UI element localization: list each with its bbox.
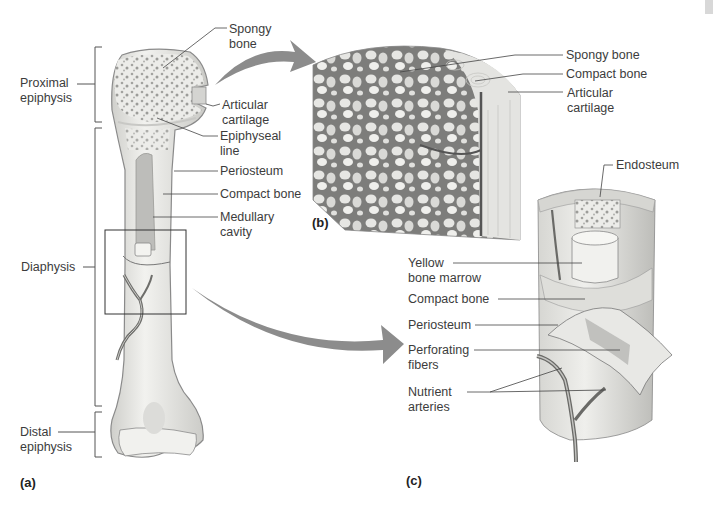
panel-label-c: (c) — [406, 473, 422, 488]
diaphysis-bracket — [83, 128, 102, 406]
label-a-articular-cartilage: Articular cartilage — [222, 98, 269, 128]
label-c-yellow-bone-marrow: Yellow bone marrow — [408, 256, 481, 286]
label-a-compact-bone: Compact bone — [220, 187, 301, 202]
scrollbar-thumb[interactable] — [705, 0, 713, 14]
panel-label-a: (a) — [20, 475, 36, 490]
label-b-spongy-bone: Spongy bone — [566, 48, 640, 63]
label-b-articular-cartilage: Articular cartilage — [567, 86, 614, 116]
label-c-perforating-fibers: Perforating fibers — [408, 343, 469, 373]
label-diaphysis: Diaphysis — [21, 260, 75, 275]
panel-label-b: (b) — [312, 215, 329, 230]
label-a-medullary-cavity: Medullary cavity — [220, 210, 274, 240]
label-b-compact-bone: Compact bone — [566, 67, 647, 82]
label-proximal-epiphysis: Proximal epiphysis — [20, 76, 72, 106]
label-c-compact-bone: Compact bone — [408, 292, 489, 307]
label-a-spongy-bone: Spongy bone — [229, 22, 271, 52]
label-a-periosteum: Periosteum — [220, 164, 283, 179]
label-a-epiphyseal-line: Epiphyseal line — [220, 129, 281, 159]
label-c-endosteum: Endosteum — [616, 158, 679, 173]
label-c-periosteum: Periosteum — [408, 318, 471, 333]
proximal-epiphysis-bracket — [77, 47, 102, 122]
label-distal-epiphysis: Distal epiphysis — [20, 425, 72, 455]
arrow-to-panel-c — [192, 288, 404, 364]
label-c-nutrient-arteries: Nutrient arteries — [408, 385, 452, 415]
